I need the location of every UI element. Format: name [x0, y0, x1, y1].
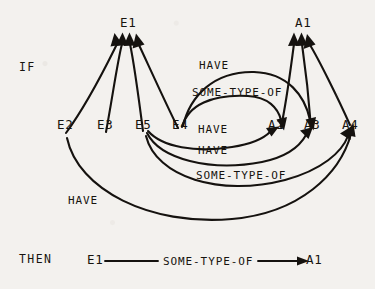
node-e3[interactable]: E3: [97, 119, 113, 132]
edge-label-have-mid1: HAVE: [198, 124, 228, 135]
consequent-subject[interactable]: E1: [87, 254, 103, 267]
consequent-relation: SOME-TYPE-OF: [163, 256, 253, 267]
node-e2[interactable]: E2: [57, 119, 73, 132]
network-edges: A1 ===== -->: [0, 0, 375, 289]
node-a1[interactable]: A1: [295, 17, 311, 30]
node-e4[interactable]: E4: [172, 119, 188, 132]
node-a2[interactable]: A2: [268, 119, 284, 132]
consequent-object[interactable]: A1: [306, 254, 322, 267]
node-a3[interactable]: A3: [304, 119, 320, 132]
edge-label-have-top: HAVE: [199, 60, 229, 71]
if-keyword: IF: [19, 62, 36, 74]
node-e5[interactable]: E5: [135, 119, 151, 132]
edge-label-some-type-of-mid: SOME-TYPE-OF: [196, 170, 286, 181]
then-keyword: THEN: [19, 254, 52, 266]
edge-e4-to-e1: [133, 34, 179, 129]
node-e1[interactable]: E1: [120, 17, 136, 30]
edge-label-have-bottom: HAVE: [68, 195, 98, 206]
edge-e4-to-a3-have: [183, 72, 316, 131]
edge-label-have-mid2: HAVE: [198, 145, 228, 156]
diagram-canvas: A1 ===== --> IF THEN E1 A1 E2 E3 E5 E4 A…: [0, 0, 375, 289]
edge-label-some-type-of-top: SOME-TYPE-OF: [192, 87, 282, 98]
node-a4[interactable]: A4: [342, 119, 358, 132]
edge-e5-to-a3-have: [147, 127, 313, 165]
